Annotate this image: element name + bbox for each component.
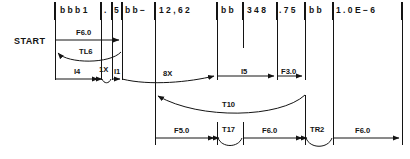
curve-1x xyxy=(102,79,111,83)
diagram-lines xyxy=(0,0,410,159)
curve-t17 xyxy=(218,138,242,146)
curve-t10 xyxy=(158,95,305,113)
record-format-diagram: START b b b 1 . 5 b b − 1 2 , 6 2 b b 3 … xyxy=(0,0,410,159)
curve-8x xyxy=(122,76,214,83)
curve-tr2 xyxy=(306,138,332,146)
